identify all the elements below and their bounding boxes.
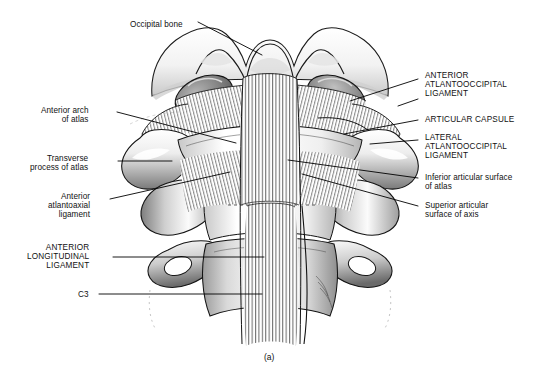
label-anterior-atlantoaxial-ligament: Anterior atlantoaxial ligament bbox=[48, 192, 90, 220]
label-superior-articular-surface-of-axis: Superior articular surface of axis bbox=[425, 201, 488, 219]
figure-caption: (a) bbox=[264, 352, 274, 362]
anatomical-figure: Occipital bone Anterior arch of atlas Tr… bbox=[0, 0, 539, 380]
label-transverse-process-of-atlas: Transverse process of atlas bbox=[30, 154, 88, 172]
label-occipital-bone: Occipital bone bbox=[130, 20, 183, 29]
label-articular-capsule: ARTICULAR CAPSULE bbox=[425, 115, 514, 124]
label-anterior-longitudinal-ligament: ANTERIOR LONGITUDINAL LIGAMENT bbox=[27, 243, 89, 271]
label-anterior-arch-of-atlas: Anterior arch of atlas bbox=[41, 106, 89, 124]
label-anterior-atlantooccipital-ligament: ANTERIOR ATLANTOOCCIPITAL LIGAMENT bbox=[425, 71, 507, 99]
label-c3: C3 bbox=[78, 290, 89, 299]
label-inferior-articular-surface-of-atlas: Inferior articular surface of atlas bbox=[425, 173, 512, 191]
label-lateral-atlantooccipital-ligament: LATERAL ATLANTOOCCIPITAL LIGAMENT bbox=[425, 133, 507, 161]
